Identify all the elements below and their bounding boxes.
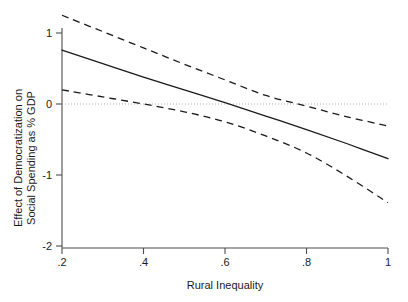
y-tick-label-neg2: -2 [42,240,52,252]
y-axis-title-line2: Social Spending as % GDP [25,91,37,225]
y-axis: 1 0 -1 -2 [42,27,62,252]
upper-ci-line [62,15,388,126]
x-tick-0p8: .8 [302,248,311,268]
y-axis-title: Effect of Democratization on Social Spen… [12,89,37,227]
y-tick-label-0: 0 [46,98,52,110]
x-tick-label-0p6: .6 [220,256,229,268]
x-tick-label-0p4: .4 [139,256,148,268]
y-tick-neg1: -1 [42,169,62,181]
x-tick-label-0p2: .2 [57,256,66,268]
y-axis-title-line1: Effect of Democratization on [12,89,24,227]
x-tick-label-0p8: .8 [302,256,311,268]
x-tick-0p6: .6 [220,248,229,268]
data-series-group [62,15,388,202]
x-axis: .2 .4 .6 .8 1 Rural Inequality [57,248,391,291]
x-tick-0p4: .4 [139,248,148,268]
x-tick-label-1: 1 [385,256,391,268]
lower-ci-line [62,90,388,203]
y-tick-label-1: 1 [46,27,52,39]
y-tick-label-neg1: -1 [42,169,52,181]
x-tick-0p2: .2 [57,248,66,268]
marginal-effect-plot: Effect of Democratization on Social Spen… [0,0,408,302]
chart-container: Effect of Democratization on Social Spen… [0,0,408,302]
x-axis-title: Rural Inequality [187,279,264,291]
x-tick-1: 1 [385,248,391,268]
y-tick-0: 0 [46,98,62,110]
y-tick-neg2: -2 [42,240,62,252]
y-tick-1: 1 [46,27,62,39]
